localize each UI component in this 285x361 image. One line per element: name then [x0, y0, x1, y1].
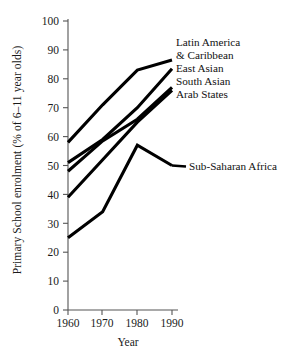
- x-axis-ticks: [68, 310, 172, 315]
- x-axis-tick-labels: 1960 1970 1980 1990: [57, 317, 184, 329]
- series-label-east-asian: East Asian: [176, 62, 224, 74]
- series-label-latin-america-line2: & Caribbean: [176, 49, 234, 61]
- y-tick-label: 0: [53, 304, 59, 316]
- x-tick-label: 1980: [126, 317, 149, 329]
- chart-figure: Primary School enrolment (% of 6–11 year…: [0, 0, 285, 361]
- x-tick-label: 1960: [57, 317, 80, 329]
- leader-line-sub-saharan-africa: [172, 166, 186, 167]
- y-tick-label: 80: [48, 73, 60, 85]
- x-tick-label: 1990: [161, 317, 184, 329]
- y-tick-label: 20: [48, 246, 60, 258]
- series-label-sub-saharan-africa: Sub-Saharan Africa: [189, 160, 277, 172]
- y-tick-label: 50: [48, 160, 60, 172]
- y-tick-label: 10: [48, 275, 60, 287]
- y-axis-tick-labels: 100 90 80 70 60 50 40 30 20 10 0: [42, 15, 60, 316]
- y-tick-label: 70: [48, 102, 60, 114]
- x-tick-label: 1970: [91, 317, 114, 329]
- y-tick-label: 90: [48, 44, 60, 56]
- y-tick-label: 60: [48, 131, 60, 143]
- y-tick-label: 40: [48, 189, 60, 201]
- series-line-east-asian: [68, 69, 172, 163]
- series-label-latin-america-line1: Latin America: [176, 36, 240, 48]
- y-axis-ticks: [63, 21, 68, 310]
- y-tick-label: 100: [42, 15, 60, 27]
- series-label-south-asian: South Asian: [176, 75, 231, 87]
- series-label-arab-states: Arab States: [176, 88, 228, 100]
- chart-plot-area: 100 90 80 70 60 50 40 30 20 10 0 1960 19…: [0, 0, 285, 361]
- y-tick-label: 30: [48, 218, 60, 230]
- series-line-south-asian: [68, 87, 172, 171]
